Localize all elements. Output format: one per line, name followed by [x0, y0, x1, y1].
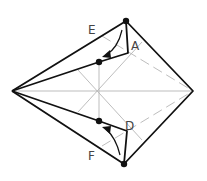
outer-kite: [12, 21, 193, 164]
bottom-dot: [121, 161, 127, 167]
origami-diagram: E A D F: [0, 0, 207, 181]
dashed-line-F: [102, 91, 193, 146]
upper-inner-dot: [96, 59, 102, 65]
points: [96, 18, 129, 167]
arrowhead-lower-icon: [102, 126, 111, 134]
arrow-fold-down-icon: [106, 30, 122, 55]
label-F: F: [88, 149, 95, 163]
crease-lines: [12, 36, 193, 146]
top-dot: [123, 18, 129, 24]
outline: [12, 21, 193, 164]
label-A: A: [131, 39, 140, 53]
arrows: [106, 30, 122, 155]
lower-inner-dot: [96, 118, 102, 124]
label-D: D: [125, 119, 134, 133]
label-E: E: [88, 23, 96, 37]
arrowhead-upper-icon: [102, 50, 111, 58]
